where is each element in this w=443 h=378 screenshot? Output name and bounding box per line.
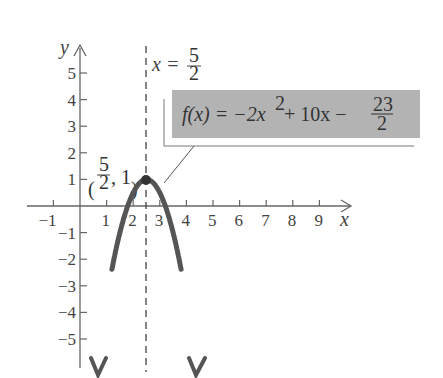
svg-text:3: 3	[68, 117, 77, 136]
svg-text:3: 3	[155, 211, 164, 230]
y-axis-label: y	[58, 36, 69, 59]
svg-text:+ 10x −: + 10x −	[284, 103, 347, 125]
x-axis-label: x	[339, 208, 349, 230]
svg-text:−4: −4	[58, 303, 77, 322]
svg-text:x =: x =	[151, 53, 179, 75]
svg-text:1: 1	[102, 211, 111, 230]
axis-of-symmetry-label: x = 5 2	[151, 44, 201, 84]
svg-text:6: 6	[235, 211, 244, 230]
svg-text:8: 8	[288, 211, 297, 230]
svg-text:−1: −1	[58, 224, 76, 243]
svg-text:−5: −5	[58, 330, 76, 349]
x-axis-ticks: −1123456789	[38, 200, 323, 230]
parabola-chart: −1123456789 54321−1−2−3−4−5 x y x = 5 2 …	[0, 0, 443, 378]
svg-text:2: 2	[189, 62, 199, 84]
svg-text:7: 7	[261, 211, 270, 230]
svg-text:4: 4	[68, 91, 77, 110]
svg-text:5: 5	[208, 211, 217, 230]
curve-arrowheads	[91, 358, 205, 375]
svg-text:9: 9	[314, 211, 323, 230]
svg-text:2: 2	[377, 112, 387, 134]
svg-text:1: 1	[68, 170, 77, 189]
svg-text:−3: −3	[58, 277, 76, 296]
svg-text:f(x) = −2x: f(x) = −2x	[182, 103, 266, 126]
svg-text:2: 2	[99, 171, 109, 193]
svg-text:−1: −1	[38, 211, 56, 230]
svg-text:4: 4	[181, 211, 190, 230]
svg-text:2: 2	[68, 144, 77, 163]
equation-callout: f(x) = −2x 2 + 10x − 23 2	[164, 90, 420, 183]
svg-text:−2: −2	[58, 250, 76, 269]
svg-text:2: 2	[128, 211, 137, 230]
vertex-point	[141, 175, 151, 185]
svg-text:, 1: , 1	[111, 166, 131, 188]
svg-text:5: 5	[68, 64, 77, 83]
svg-text:(: (	[88, 178, 95, 201]
